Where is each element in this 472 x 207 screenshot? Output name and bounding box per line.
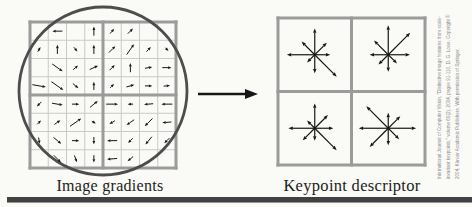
transform-arrow — [198, 89, 258, 99]
gradient-grid — [29, 21, 178, 170]
bottom-divider-bar — [7, 197, 472, 203]
descriptor-histogram-top-left — [287, 28, 337, 76]
citation-line-2: invariant keypoints," volume 60(2), 2004… — [445, 7, 454, 179]
caption-image-gradients: Image gradients — [36, 177, 184, 195]
caption-keypoint-descriptor: Keypoint descriptor — [268, 176, 436, 196]
descriptor-histogram-bottom-left — [288, 103, 336, 150]
descriptor-histogram-bottom-right — [359, 106, 416, 147]
citation-sidebar: International Journal of Computer Vision… — [436, 7, 464, 179]
citation-line-1: International Journal of Computer Vision… — [436, 7, 445, 179]
citation-line-3: 2004, Kluwer Academic Publishers. With p… — [454, 7, 463, 179]
sift-descriptor-figure: Image gradients Keypoint descriptor Inte… — [0, 0, 472, 207]
descriptor-histogram-top-right — [370, 25, 411, 72]
